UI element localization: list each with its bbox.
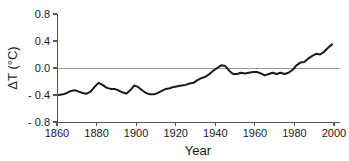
x-tick-label: 1920	[163, 127, 187, 139]
x-tick-label: 1960	[243, 127, 267, 139]
y-tick-label: 0.0	[35, 62, 50, 74]
x-tick-label: 1980	[282, 127, 306, 139]
temperature-anomaly-line	[59, 44, 332, 95]
x-tick-label: 1940	[203, 127, 227, 139]
x-axis-tick-labels: 18601880190019201940196019802000	[45, 127, 346, 139]
y-tick-label: 0.8	[35, 8, 50, 20]
y-axis-title: ΔT (°C)	[5, 46, 20, 89]
chart-canvas: - 0.8- 0.40.00.40.8 18601880190019201940…	[0, 0, 349, 161]
y-axis-ticks	[53, 14, 57, 122]
y-tick-label: - 0.4	[28, 89, 50, 101]
y-tick-label: 0.4	[35, 35, 50, 47]
x-tick-label: 1900	[124, 127, 148, 139]
x-axis-title: Year	[185, 143, 212, 158]
x-tick-label: 2000	[322, 127, 346, 139]
y-axis-tick-labels: - 0.8- 0.40.00.40.8	[28, 8, 50, 128]
x-tick-label: 1880	[84, 127, 108, 139]
temperature-anomaly-chart: - 0.8- 0.40.00.40.8 18601880190019201940…	[0, 0, 349, 161]
x-tick-label: 1860	[45, 127, 69, 139]
